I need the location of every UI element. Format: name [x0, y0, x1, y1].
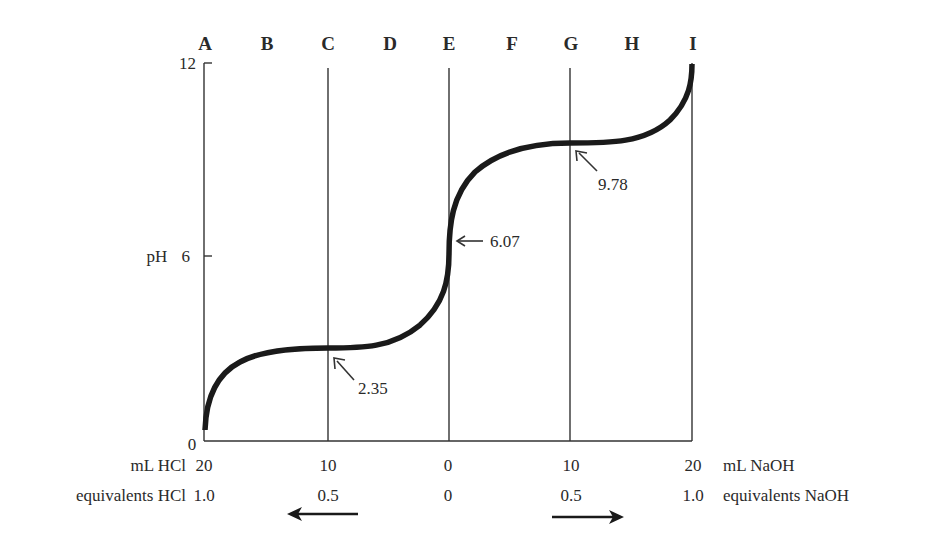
col-label-g: G	[564, 33, 579, 54]
annotation-label-6-07: 6.07	[490, 232, 520, 251]
eq-tick-i: 1.0	[682, 486, 703, 505]
col-label-b: B	[261, 33, 274, 54]
col-label-a: A	[198, 33, 212, 54]
col-label-h: H	[625, 33, 640, 54]
right-arrow-icon	[552, 510, 624, 524]
y-tick-label-6: 6	[182, 247, 191, 266]
eq-tick-e: 0	[444, 486, 453, 505]
col-label-e: E	[443, 33, 456, 54]
annotation-label-2-35: 2.35	[358, 379, 388, 398]
ml-tick-i: 20	[685, 456, 702, 475]
col-label-c: C	[321, 33, 335, 54]
eq-tick-a: 1.0	[193, 486, 214, 505]
y-tick-label-0: 0	[188, 435, 197, 454]
eq-tick-g: 0.5	[560, 486, 581, 505]
y-tick-label-12: 12	[179, 54, 196, 73]
ml-tick-row: mL HCl 20 10 0 10 20 mL NaOH	[130, 456, 794, 475]
eq-naoh-label: equivalents NaOH	[723, 486, 849, 505]
annotation-pka1: 2.35	[334, 358, 388, 398]
annotation-label-9-78: 9.78	[598, 175, 628, 194]
ml-tick-a: 20	[196, 456, 213, 475]
col-label-d: D	[383, 33, 397, 54]
col-label-i: I	[689, 33, 696, 54]
ml-tick-e: 0	[444, 456, 453, 475]
equivalents-tick-row: equivalents HCl 1.0 0.5 0 0.5 1.0 equiva…	[76, 486, 849, 505]
annotation-pka2: 9.78	[576, 151, 628, 194]
eq-hcl-label: equivalents HCl	[76, 486, 186, 505]
annotation-pi: 6.07	[457, 232, 520, 251]
ml-tick-g: 10	[563, 456, 580, 475]
ml-naoh-label: mL NaOH	[723, 456, 795, 475]
col-label-f: F	[506, 33, 518, 54]
titration-chart: A B C D E F G H I 12 6 pH 0 2.35 6.07	[0, 0, 929, 554]
ml-tick-c: 10	[320, 456, 337, 475]
eq-tick-c: 0.5	[317, 486, 338, 505]
column-labels: A B C D E F G H I	[198, 33, 697, 54]
ml-hcl-label: mL HCl	[130, 456, 186, 475]
left-arrow-icon	[287, 507, 358, 521]
y-axis-title: pH	[147, 247, 168, 266]
